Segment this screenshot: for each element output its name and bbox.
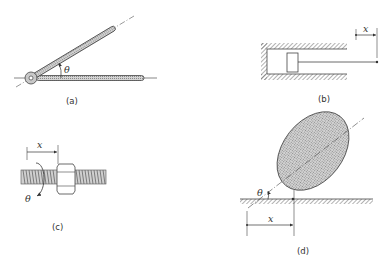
- elliptical-body: [262, 98, 363, 204]
- cylinder-bore: [267, 49, 347, 74]
- panel-a: θ (a): [14, 16, 157, 106]
- ground-hatch: [240, 199, 373, 204]
- x-label: x: [268, 213, 274, 224]
- panel-b: x (b): [261, 23, 378, 104]
- caption-b: (b): [318, 94, 330, 104]
- theta-label: θ: [64, 64, 70, 75]
- fixed-bar: [36, 76, 144, 81]
- cylinder-bottom-wall: [261, 74, 347, 80]
- theta-label: θ: [25, 193, 31, 204]
- nut: [57, 164, 75, 194]
- panel-c: x θ (c): [21, 139, 106, 232]
- mechanism-diagram: θ (a) x (b): [0, 0, 389, 266]
- caption-a: (a): [66, 96, 78, 106]
- theta-label: θ: [257, 187, 263, 198]
- piston: [287, 53, 298, 72]
- x-label: x: [363, 23, 369, 34]
- x-label: x: [37, 139, 43, 150]
- rod-end-point: [376, 61, 378, 63]
- panel-d: x θ (d): [240, 98, 373, 256]
- caption-c: (c): [52, 222, 63, 232]
- angle-arc: [268, 191, 269, 199]
- rotating-bar: [30, 25, 117, 80]
- pivot-pin: [29, 76, 33, 80]
- cylinder-end-wall: [261, 43, 267, 80]
- caption-d: (d): [297, 246, 309, 256]
- cylinder-top-wall: [261, 43, 347, 49]
